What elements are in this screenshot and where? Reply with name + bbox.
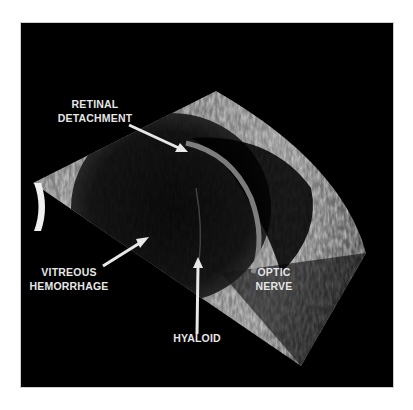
label-optic-nerve: OPTIC NERVE	[254, 265, 294, 293]
label-hyaloid: HYALOID	[167, 331, 227, 345]
ultrasound-frame: RETINAL DETACHMENT VITREOUS HEMORRHAGE O…	[20, 22, 394, 388]
label-line: RETINAL	[55, 97, 135, 111]
label-line: HEMORRHAGE	[29, 279, 109, 293]
label-line: OPTIC	[254, 265, 294, 279]
label-line: NERVE	[254, 279, 294, 293]
probe-arc	[34, 183, 45, 231]
arrow-hyaloid	[197, 266, 198, 334]
label-line: HYALOID	[167, 331, 227, 345]
label-line: DETACHMENT	[55, 111, 135, 125]
label-retinal-detachment: RETINAL DETACHMENT	[55, 97, 135, 125]
label-vitreous-hemorrhage: VITREOUS HEMORRHAGE	[29, 265, 109, 293]
label-line: VITREOUS	[29, 265, 109, 279]
